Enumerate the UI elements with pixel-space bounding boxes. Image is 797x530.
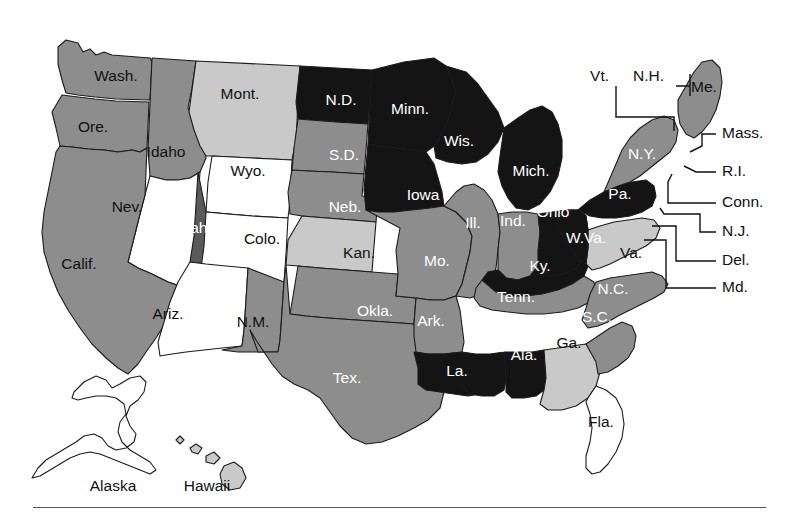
state-label-co: Colo. (244, 230, 280, 247)
state-label-ga: Ga. (557, 334, 582, 351)
callout-label-nj: N.J. (722, 222, 750, 239)
state-label-tn: Tenn. (497, 288, 535, 305)
state-label-al: Ala. (511, 346, 538, 363)
state-label-ne: Neb. (329, 198, 362, 215)
state-label-id: Idaho (147, 143, 186, 160)
state-label-oh: Ohio (537, 203, 570, 220)
state-mt[interactable] (189, 61, 300, 160)
state-ms[interactable] (462, 352, 506, 396)
callout-label-ma: Mass. (722, 124, 763, 141)
callout-label-md: Md. (722, 278, 748, 295)
callout-label-vt: Vt. (590, 67, 609, 84)
bottom-rule (33, 507, 766, 508)
state-label-wv: W.Va. (566, 229, 606, 246)
state-label-nc: N.C. (598, 280, 629, 297)
callout-label-de: Del. (722, 251, 750, 268)
state-label-sc: S.C. (582, 308, 612, 325)
state-label-me: Me. (691, 78, 717, 95)
state-label-ky: Ky. (529, 257, 550, 274)
state-label-sd: S.D. (329, 146, 359, 163)
state-label-ks: Kan. (343, 244, 375, 261)
state-label-az: Ariz. (153, 305, 184, 322)
state-label-nv: Nev. (112, 198, 143, 215)
state-label-mn: Minn. (391, 100, 429, 117)
state-label-ia: Iowa (407, 186, 440, 203)
state-label-wa: Wash. (94, 67, 137, 84)
state-label-ny: N.Y. (628, 145, 656, 162)
callout-leader-ri (684, 166, 716, 172)
state-label-mt: Mont. (221, 85, 260, 102)
state-mi[interactable] (498, 106, 562, 210)
state-label-ca: Calif. (61, 255, 96, 272)
us-choropleth-map: Wash.Ore.IdahoMont.Wyo.Nev.UtahColo.Cali… (0, 0, 797, 530)
callout-leader-nj (660, 208, 716, 232)
state-label-in: Ind. (500, 212, 526, 229)
state-label-ok: Okla. (357, 302, 393, 319)
inset-label-hi: Hawaii (184, 477, 231, 494)
state-label-ms: Miss. (469, 338, 505, 355)
callout-leader-ct (668, 174, 716, 203)
state-me[interactable] (678, 60, 722, 138)
state-label-ar: Ark. (417, 312, 445, 329)
callout-label-ri: R.I. (722, 162, 746, 179)
state-label-tx: Tex. (333, 369, 361, 386)
state-label-va: Va. (620, 244, 642, 261)
callout-leader-de (652, 226, 716, 261)
state-label-la: La. (446, 362, 468, 379)
state-label-nm: N.M. (237, 313, 270, 330)
callout-label-ct: Conn. (722, 193, 763, 210)
state-label-wy: Wyo. (230, 162, 265, 179)
state-label-nd: N.D. (326, 91, 357, 108)
state-label-ut: Utah (175, 219, 208, 236)
state-label-or: Ore. (78, 118, 108, 135)
map-figure: Wash.Ore.IdahoMont.Wyo.Nev.UtahColo.Cali… (0, 0, 797, 530)
state-label-wi: Wis. (444, 132, 474, 149)
state-label-il: Ill. (465, 214, 481, 231)
state-label-fl: Fla. (588, 413, 614, 430)
insets-layer (32, 376, 246, 490)
inset-ak[interactable] (32, 376, 156, 478)
state-label-mi: Mich. (512, 162, 549, 179)
state-label-mo: Mo. (424, 252, 450, 269)
inset-label-ak: Alaska (90, 477, 137, 494)
callout-label-nh: N.H. (633, 67, 664, 84)
state-label-pa: Pa. (608, 185, 631, 202)
